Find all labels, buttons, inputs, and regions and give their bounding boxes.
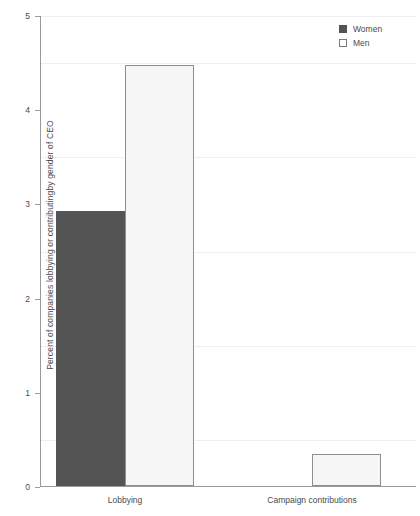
x-tick-label: Campaign contributions — [267, 495, 356, 505]
legend-item-men: Men — [339, 36, 382, 50]
legend-swatch-women-icon — [339, 25, 347, 33]
y-tick-label: 2 — [6, 295, 30, 304]
y-tick-label: 5 — [6, 12, 30, 21]
legend-label-men: Men — [353, 39, 370, 48]
plot-area: 012345 LobbyingCampaign contributions — [40, 16, 416, 487]
y-tick-mark — [35, 110, 40, 111]
legend-swatch-men-icon — [339, 39, 347, 47]
gridline — [41, 16, 416, 18]
legend: Women Men — [339, 22, 382, 50]
y-tick-mark — [35, 393, 40, 394]
bar-chart-figure: Percent of companies lobbying or contrib… — [0, 0, 420, 516]
legend-item-women: Women — [339, 22, 382, 36]
y-tick-mark — [35, 204, 40, 205]
gridline — [41, 63, 416, 65]
y-tick-mark — [35, 16, 40, 17]
legend-label-women: Women — [353, 25, 382, 34]
y-tick-mark — [35, 299, 40, 300]
gridline — [41, 157, 416, 159]
y-tick-label: 0 — [6, 483, 30, 492]
bar-men-1 — [312, 454, 381, 486]
y-tick-label: 4 — [6, 106, 30, 115]
y-tick-mark — [35, 487, 40, 488]
x-axis-spine — [40, 486, 416, 487]
y-tick-label: 3 — [6, 200, 30, 209]
bar-women-0 — [56, 211, 125, 486]
y-tick-label: 1 — [6, 389, 30, 398]
bar-men-0 — [125, 65, 194, 486]
x-tick-label: Lobbying — [108, 495, 143, 505]
